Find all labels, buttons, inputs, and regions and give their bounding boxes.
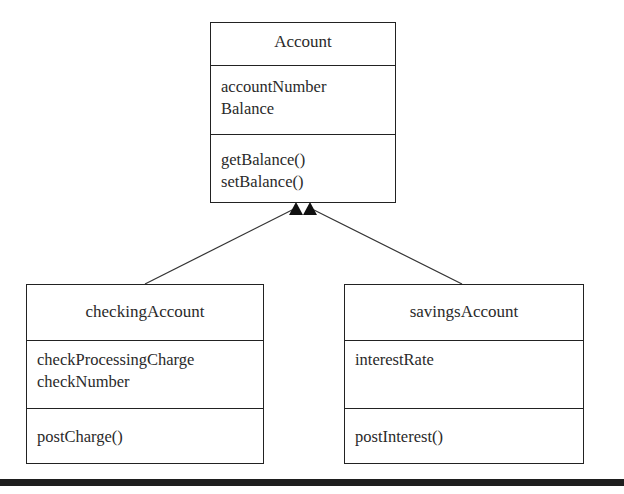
checking-to-account-line bbox=[145, 208, 296, 284]
method: getBalance() bbox=[211, 149, 395, 171]
methods-section: postCharge() bbox=[27, 408, 263, 463]
class-account: Account accountNumber Balance getBalance… bbox=[210, 22, 396, 203]
attributes-section: checkProcessingCharge checkNumber bbox=[27, 340, 263, 408]
attribute: checkProcessingCharge bbox=[27, 349, 263, 371]
method: postCharge() bbox=[27, 426, 263, 448]
methods-section: getBalance() setBalance() bbox=[211, 134, 395, 202]
class-savings-account: savingsAccount interestRate postInterest… bbox=[344, 284, 584, 464]
arrowhead-savings-icon bbox=[303, 202, 317, 215]
attribute: accountNumber bbox=[211, 76, 395, 98]
class-name-section: Account bbox=[211, 23, 395, 65]
class-name-section: savingsAccount bbox=[345, 285, 583, 340]
class-checking-account: checkingAccount checkProcessingCharge ch… bbox=[26, 284, 264, 464]
savings-to-account-line bbox=[310, 208, 462, 284]
class-name: savingsAccount bbox=[410, 302, 519, 321]
attributes-section: accountNumber Balance bbox=[211, 65, 395, 134]
method: setBalance() bbox=[211, 171, 395, 193]
attributes-section: interestRate bbox=[345, 340, 583, 408]
bottom-rule bbox=[0, 479, 624, 486]
class-name-section: checkingAccount bbox=[27, 285, 263, 340]
attribute: Balance bbox=[211, 98, 395, 120]
method: postInterest() bbox=[345, 426, 583, 448]
arrowhead-checking-icon bbox=[289, 202, 303, 215]
attribute: interestRate bbox=[345, 349, 583, 371]
attribute: checkNumber bbox=[27, 371, 263, 393]
class-name: checkingAccount bbox=[86, 302, 205, 321]
methods-section: postInterest() bbox=[345, 408, 583, 463]
class-name: Account bbox=[274, 32, 332, 51]
